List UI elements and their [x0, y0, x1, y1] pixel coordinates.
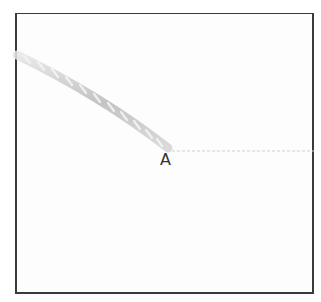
point-label-a: A: [160, 151, 171, 169]
rope-icon: [17, 55, 168, 148]
